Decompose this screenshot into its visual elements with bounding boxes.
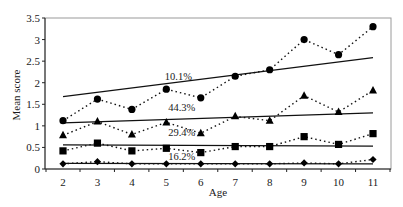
data-series xyxy=(63,27,373,164)
x-tick-label: 10 xyxy=(333,176,345,188)
y-tick-label: 1.5 xyxy=(26,98,40,110)
diamond-marker xyxy=(266,160,273,167)
square-marker xyxy=(232,143,239,150)
square-marker xyxy=(301,133,308,140)
triangle-marker xyxy=(369,86,377,94)
x-tick-label: 3 xyxy=(95,176,101,188)
square-marker xyxy=(335,141,342,148)
percent-annotation: 10.1% xyxy=(165,71,192,82)
circle-marker xyxy=(335,51,342,58)
trend-line xyxy=(63,145,373,146)
circle-marker xyxy=(197,94,204,101)
square-marker xyxy=(94,140,101,147)
x-tick-label: 11 xyxy=(368,176,379,188)
circle-marker xyxy=(163,86,170,93)
x-tick-label: 9 xyxy=(301,176,307,188)
trend-lines xyxy=(63,58,373,164)
y-tick-label: 1 xyxy=(35,120,41,132)
trend-line xyxy=(63,58,373,97)
x-tick-label: 7 xyxy=(232,176,238,188)
y-axis-label: Mean score xyxy=(10,69,22,120)
percent-annotation: 29.4% xyxy=(168,127,195,138)
square-marker xyxy=(59,147,66,154)
square-marker xyxy=(266,143,273,150)
diamond-marker xyxy=(301,159,308,166)
triangle-marker xyxy=(93,117,101,125)
diamond-marker xyxy=(335,160,342,167)
diamond-marker xyxy=(128,160,135,167)
triangle-marker xyxy=(300,91,308,99)
circle-marker xyxy=(369,23,376,30)
circle-marker xyxy=(232,73,239,80)
y-tick-label: 0 xyxy=(35,163,41,175)
x-tick-label: 6 xyxy=(198,176,204,188)
x-tick-label: 2 xyxy=(60,176,66,188)
diamond-marker xyxy=(197,160,204,167)
circle-marker xyxy=(59,117,66,124)
y-tick-label: 3.5 xyxy=(26,12,40,24)
x-tick-label: 8 xyxy=(267,176,273,188)
x-tick-label: 5 xyxy=(164,176,170,188)
circle-marker xyxy=(128,106,135,113)
diamond-marker xyxy=(59,160,66,167)
y-tick-label: 2.5 xyxy=(26,55,40,67)
y-axis: 00.511.522.533.5 xyxy=(26,12,45,175)
square-marker xyxy=(369,130,376,137)
square-marker xyxy=(128,147,135,154)
trend-line xyxy=(63,113,373,123)
triangle-marker xyxy=(231,112,239,120)
line-chart: 00.511.522.533.5 234567891011 10.1%44.3%… xyxy=(0,0,403,207)
diamond-marker xyxy=(232,160,239,167)
circle-marker xyxy=(266,66,273,73)
x-tick-label: 4 xyxy=(129,176,135,188)
diamond-marker xyxy=(94,158,101,165)
diamond-marker xyxy=(369,156,376,163)
percent-annotation: 44.3% xyxy=(168,102,195,113)
square-marker xyxy=(197,149,204,156)
y-tick-label: 2 xyxy=(35,77,41,89)
y-tick-label: 0.5 xyxy=(26,141,40,153)
y-tick-label: 3 xyxy=(35,34,41,46)
series-line xyxy=(63,134,373,153)
circle-marker xyxy=(301,36,308,43)
x-axis-label: Age xyxy=(209,186,227,198)
triangle-marker xyxy=(59,131,67,139)
circle-marker xyxy=(94,96,101,103)
series-line xyxy=(63,90,373,135)
percent-annotation: 16.2% xyxy=(168,151,195,162)
series-line xyxy=(63,27,373,121)
